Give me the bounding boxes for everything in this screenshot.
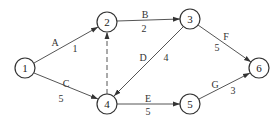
node-1: 1 (15, 58, 35, 78)
edge-label-duration-C: 5 (59, 93, 64, 104)
network-diagram: A 1 C 5 B 2 D 4 E 5 F 5 G 3 1 2 3 4 (0, 0, 277, 124)
edge-label-activity-E: E (145, 93, 151, 104)
node-4-label: 4 (104, 98, 110, 110)
edge-B-2-to-3 (117, 19, 180, 21)
edge-label-duration-G: 3 (231, 85, 236, 96)
node-6: 6 (249, 58, 269, 78)
edge-label-activity-F: F (223, 31, 229, 42)
edge-D-3-to-4 (114, 27, 183, 96)
edge-label-duration-B: 2 (142, 23, 147, 34)
edge-label-activity-C: C (63, 78, 70, 89)
node-1-label: 1 (22, 62, 28, 74)
node-6-label: 6 (256, 62, 262, 74)
edge-G-5-to-6 (199, 73, 250, 99)
edge-label-duration-F: 5 (215, 42, 220, 53)
node-2: 2 (97, 12, 117, 32)
edge-label-duration-E: 5 (146, 106, 151, 117)
node-5-label: 5 (187, 98, 193, 110)
edge-label-activity-A: A (51, 37, 59, 48)
edge-A-1-to-2 (34, 27, 98, 63)
node-3-label: 3 (187, 13, 193, 25)
diagram-svg: A 1 C 5 B 2 D 4 E 5 F 5 G 3 1 2 3 4 (0, 0, 277, 124)
edge-label-activity-D: D (139, 52, 146, 63)
edge-label-activity-B: B (142, 9, 149, 20)
node-2-label: 2 (104, 16, 110, 28)
edge-label-activity-G: G (211, 79, 218, 90)
node-5: 5 (180, 94, 200, 114)
edge-label-duration-A: 1 (73, 43, 78, 54)
edge-label-duration-D: 4 (164, 52, 169, 63)
node-3: 3 (180, 9, 200, 29)
node-4: 4 (97, 94, 117, 114)
